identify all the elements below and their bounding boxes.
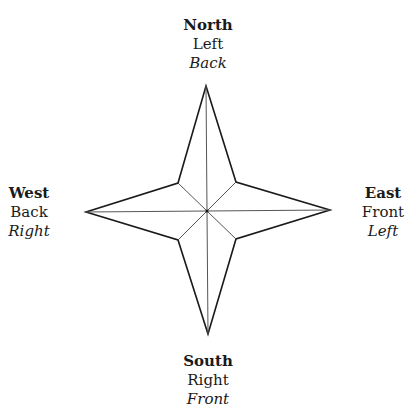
label-north: North Left Back — [168, 16, 248, 73]
east-direction: East — [352, 184, 414, 203]
north-line3: Back — [168, 54, 248, 73]
north-line2: Left — [168, 35, 248, 54]
north-direction: North — [168, 16, 248, 35]
south-line2: Right — [168, 371, 248, 390]
label-east: East Front Left — [352, 184, 414, 241]
west-direction: West — [0, 184, 58, 203]
south-direction: South — [168, 352, 248, 371]
west-line2: Back — [0, 203, 58, 222]
center-dot — [206, 210, 209, 213]
label-west: West Back Right — [0, 184, 58, 241]
west-line3: Right — [0, 222, 58, 241]
east-line2: Front — [352, 203, 414, 222]
south-line3: Front — [168, 390, 248, 409]
label-south: South Right Front — [168, 352, 248, 409]
east-line3: Left — [352, 222, 414, 241]
